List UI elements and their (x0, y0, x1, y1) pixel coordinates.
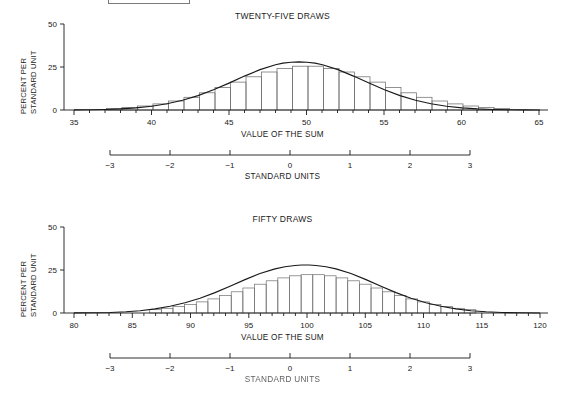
x-axis-twenty-five-draws (64, 110, 548, 115)
x-axis-fifty-draws (64, 313, 548, 318)
x-axis-caption-twenty-five-draws: VALUE OF THE SUM (0, 130, 565, 139)
y-tick-0: 0 (53, 309, 58, 318)
y-tick-50: 50 (48, 223, 57, 232)
x-tick-labels-twenty-five-draws: 35 40 45 50 55 60 65 (70, 118, 544, 127)
x-tick-40: 40 (147, 118, 156, 127)
y-tick-0: 0 (53, 106, 58, 115)
x-tick-100: 100 (300, 321, 314, 330)
y-axis-twenty-five-draws: 50 25 0 (48, 20, 64, 115)
standard-units-tick-labels-fifty-draws: −3 −2 −1 0 1 2 3 (105, 364, 472, 373)
x-tick-90: 90 (186, 321, 195, 330)
y-tick-25: 25 (48, 63, 57, 72)
su-tick-0: 0 (288, 161, 293, 170)
histogram-bars-fifty-draws (150, 275, 476, 313)
x-tick-115: 115 (475, 321, 488, 330)
su-tick-3: 3 (468, 161, 473, 170)
chart-panel-fifty-draws: FIFTY DRAWS PERCENT PER STANDARD UNIT 50… (0, 203, 565, 397)
y-tick-25: 25 (48, 266, 57, 275)
x-tick-80: 80 (70, 321, 79, 330)
su-tick-minus3: −3 (105, 364, 115, 373)
standard-units-axis-fifty-draws (110, 353, 470, 358)
x-tick-55: 55 (380, 118, 389, 127)
x-tick-50: 50 (302, 118, 311, 127)
su-tick-3: 3 (468, 364, 473, 373)
y-axis-fifty-draws: 50 25 0 (48, 223, 64, 318)
x-tick-95: 95 (244, 321, 253, 330)
x-tick-120: 120 (533, 321, 547, 330)
su-tick-minus1: −1 (225, 161, 235, 170)
plot-twenty-five-draws: 50 25 0 (0, 0, 565, 198)
su-tick-minus3: −3 (105, 161, 115, 170)
normal-curve-fifty-draws (74, 265, 540, 313)
x-tick-105: 105 (359, 321, 373, 330)
standard-units-axis-twenty-five-draws (110, 150, 470, 155)
standard-units-caption-twenty-five-draws: STANDARD UNITS (0, 172, 565, 181)
x-tick-85: 85 (128, 321, 137, 330)
standard-units-caption-fifty-draws: STANDARD UNITS (0, 375, 565, 384)
standard-units-tick-labels-twenty-five-draws: −3 −2 −1 0 1 2 3 (105, 161, 472, 170)
figure-page: TWENTY-FIVE DRAWS PERCENT PER STANDARD U… (0, 0, 565, 397)
x-tick-60: 60 (457, 118, 466, 127)
x-tick-45: 45 (225, 118, 234, 127)
su-tick-2: 2 (408, 161, 413, 170)
y-tick-50: 50 (48, 20, 57, 29)
su-tick-2: 2 (408, 364, 413, 373)
su-tick-minus1: −1 (225, 364, 235, 373)
su-tick-0: 0 (288, 364, 293, 373)
su-tick-minus2: −2 (165, 364, 175, 373)
x-tick-labels-fifty-draws: 80 85 90 95 100 105 110 115 120 (70, 321, 548, 330)
x-tick-35: 35 (70, 118, 79, 127)
chart-panel-twenty-five-draws: TWENTY-FIVE DRAWS PERCENT PER STANDARD U… (0, 0, 565, 198)
x-axis-caption-fifty-draws: VALUE OF THE SUM (0, 333, 565, 342)
plot-fifty-draws: 50 25 0 (0, 203, 565, 397)
normal-curve-twenty-five-draws (74, 62, 540, 110)
x-tick-65: 65 (535, 118, 544, 127)
su-tick-minus2: −2 (165, 161, 175, 170)
su-tick-1: 1 (348, 161, 353, 170)
x-tick-110: 110 (417, 321, 430, 330)
su-tick-1: 1 (348, 364, 353, 373)
